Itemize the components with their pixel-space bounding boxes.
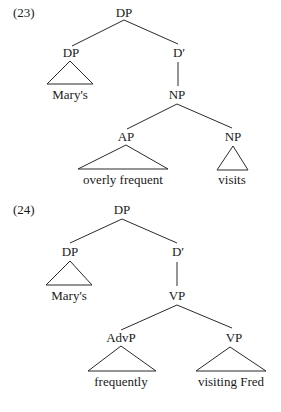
- tree-24: (24) DP DP Mary's D′ VP AdvP frequently …: [13, 202, 266, 389]
- vp-label: VP: [169, 288, 186, 303]
- edge-np-to-np: [177, 104, 232, 128]
- tree-23: (23) DP DP Mary's D′ NP AP overly freque…: [13, 5, 248, 187]
- spec-triangle: [46, 261, 92, 285]
- root-dp-label: DP: [116, 5, 133, 20]
- advp-leaf: frequently: [94, 374, 148, 389]
- spec-triangle: [47, 61, 93, 84]
- advp-label: AdvP: [106, 330, 136, 345]
- np-right-label: NP: [225, 129, 242, 144]
- advp-triangle: [88, 346, 156, 371]
- ap-triangle: [78, 145, 168, 169]
- syntax-trees: (23) DP DP Mary's D′ NP AP overly freque…: [0, 0, 281, 412]
- vp-right-label: VP: [226, 330, 243, 345]
- d-bar-label: D′: [172, 244, 184, 259]
- edge-root-to-bar: [124, 20, 178, 44]
- edge-root-to-bar: [122, 219, 177, 243]
- ap-leaf: overly frequent: [83, 172, 163, 187]
- vp-right-leaf: visiting Fred: [198, 374, 265, 389]
- d-bar-label: D′: [173, 45, 185, 60]
- np-right-triangle: [217, 146, 248, 170]
- np-right-leaf: visits: [218, 172, 245, 187]
- spec-leaf: Mary's: [51, 288, 87, 303]
- spec-dp-label: DP: [62, 244, 79, 259]
- spec-leaf: Mary's: [52, 87, 88, 102]
- edge-vp-to-vp: [177, 305, 232, 328]
- root-dp-label: DP: [114, 202, 131, 217]
- edge-root-to-spec: [70, 219, 122, 243]
- edge-root-to-spec: [72, 20, 124, 46]
- ap-label: AP: [118, 129, 135, 144]
- example-number: (23): [13, 5, 35, 20]
- example-number: (24): [13, 202, 35, 217]
- edge-vp-to-advp: [121, 305, 177, 330]
- vp-right-triangle: [196, 347, 266, 371]
- spec-dp-label: DP: [63, 45, 80, 60]
- edge-np-to-ap: [127, 104, 177, 129]
- np-label: NP: [169, 87, 186, 102]
